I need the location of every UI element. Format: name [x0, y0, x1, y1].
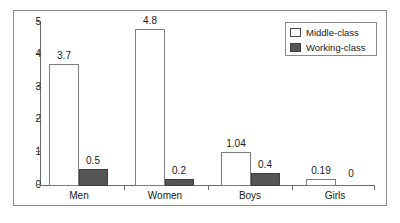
y-tick-label-3: 3	[19, 82, 41, 92]
bar-label-girls-working-class: 0	[341, 169, 361, 179]
category-label-women: Women	[143, 190, 187, 202]
bar-label-boys-middle-class: 1.04	[216, 139, 256, 149]
y-tick-mark-5	[36, 21, 41, 22]
x-tick-mark-1	[124, 186, 125, 190]
bar-men-middle-class	[49, 64, 79, 186]
bar-women-working-class	[165, 179, 194, 186]
category-label-men: Men	[58, 190, 100, 202]
y-tick-5: 5	[0, 17, 41, 27]
legend-swatch-middle-class-icon	[290, 28, 301, 37]
y-tick-mark-2	[36, 118, 41, 119]
y-tick-label-2: 2	[19, 114, 41, 124]
bar-label-girls-middle-class: 0.19	[301, 166, 341, 176]
y-tick-mark-3	[36, 86, 41, 87]
bar-label-men-middle-class: 3.7	[44, 51, 84, 61]
y-tick-label-4: 4	[19, 49, 41, 59]
bar-women-middle-class	[135, 29, 165, 186]
chart-legend: Middle-class Working-class	[285, 22, 377, 56]
legend-label-working-class: Working-class	[306, 43, 365, 53]
bar-label-boys-working-class: 0.4	[245, 160, 285, 170]
bar-label-women-middle-class: 4.8	[130, 16, 170, 26]
y-tick-4: 4	[0, 49, 41, 59]
legend-swatch-working-class-icon	[290, 43, 301, 52]
category-label-girls: Girls	[314, 190, 356, 202]
bar-boys-working-class	[251, 173, 280, 186]
y-tick-1: 1	[0, 147, 41, 157]
y-tick-label-5: 5	[19, 17, 41, 27]
y-tick-2: 2	[0, 114, 41, 124]
bar-chart-figure: 5 4 3 2 1 0 3.7 0	[0, 0, 400, 223]
y-tick-0: 0	[0, 180, 41, 190]
bar-label-women-working-class: 0.2	[159, 166, 199, 176]
legend-label-middle-class: Middle-class	[306, 28, 359, 38]
y-axis-line	[40, 21, 41, 186]
legend-item-working-class: Working-class	[290, 41, 372, 54]
y-tick-mark-1	[36, 151, 41, 152]
category-label-boys: Boys	[229, 190, 271, 202]
x-tick-mark-2	[208, 186, 209, 190]
bar-men-working-class	[79, 169, 108, 186]
x-tick-mark-4	[374, 186, 375, 190]
bar-label-men-working-class: 0.5	[73, 156, 113, 166]
legend-item-middle-class: Middle-class	[290, 26, 372, 39]
bar-girls-middle-class	[306, 179, 336, 186]
y-tick-label-0: 0	[19, 180, 41, 190]
y-tick-3: 3	[0, 82, 41, 92]
y-tick-mark-4	[36, 53, 41, 54]
x-tick-mark-3	[292, 186, 293, 190]
y-tick-label-1: 1	[19, 147, 41, 157]
